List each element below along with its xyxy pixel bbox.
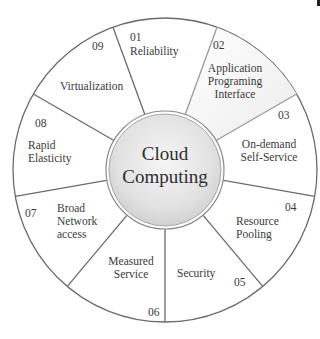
segment-label: Reliability <box>130 45 179 58</box>
segment-number: 08 <box>35 117 47 129</box>
segment-label: Security <box>177 267 215 280</box>
segment-number: 02 <box>213 39 225 51</box>
segment-label: Rapid Elasticity <box>28 139 71 165</box>
segment-number: 03 <box>278 109 290 121</box>
segment-label: Resource Pooling <box>236 215 279 241</box>
segment-label: Measured Service <box>104 255 158 281</box>
segment-number: 05 <box>234 276 246 288</box>
center-title-line1: Cloud <box>107 142 223 165</box>
segment-label: Broad Network access <box>57 202 97 241</box>
segment-number: 01 <box>130 31 142 43</box>
center-title: Cloud Computing <box>107 142 223 188</box>
segment-label: Application Programing Interface <box>205 62 265 101</box>
segment-number: 04 <box>285 201 297 213</box>
segment-label: Virtualization <box>60 80 123 93</box>
segment-number: 09 <box>92 40 104 52</box>
segment-label: On-demand Self-Service <box>238 138 300 164</box>
center-title-line2: Computing <box>107 165 223 188</box>
segment-number: 07 <box>25 207 37 219</box>
segment-number: 06 <box>148 306 160 318</box>
